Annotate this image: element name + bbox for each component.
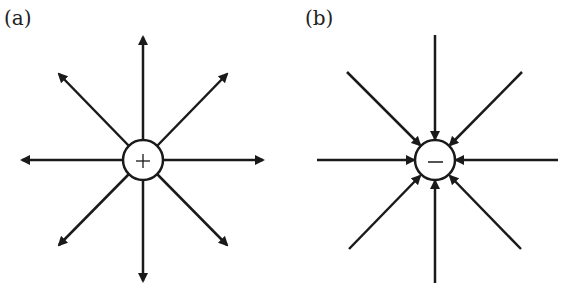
field-line-upright bbox=[157, 74, 227, 146]
panel-a-diagram bbox=[22, 37, 263, 281]
negative-charge-circle bbox=[415, 140, 455, 180]
field-line-upleft bbox=[59, 74, 129, 146]
field-line-downright bbox=[450, 176, 521, 249]
panel-b-diagram bbox=[317, 35, 558, 283]
field-line-upleft bbox=[347, 72, 420, 145]
field-line-downleft bbox=[59, 174, 129, 245]
field-line-upright bbox=[450, 72, 522, 145]
field-lines-diagram bbox=[0, 0, 561, 301]
field-line-downright bbox=[157, 174, 227, 245]
field-line-downleft bbox=[349, 176, 420, 249]
